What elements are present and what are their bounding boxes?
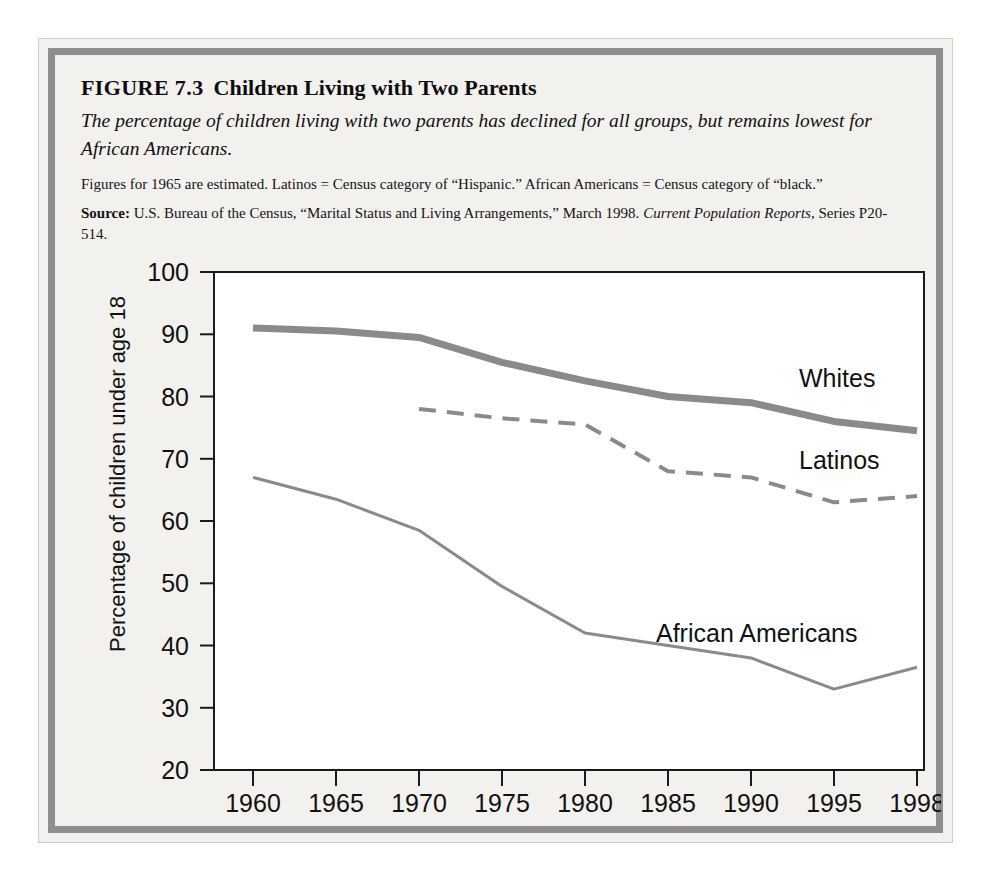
series-label-whites: Whites [799, 364, 875, 392]
x-tick-label: 1970 [391, 789, 447, 812]
y-tick-label: 30 [161, 693, 189, 721]
x-tick-label: 1960 [225, 789, 281, 812]
y-tick-label: 80 [161, 382, 189, 410]
figure-outer-frame: FIGURE 7.3Children Living with Two Paren… [38, 38, 953, 843]
x-axis-ticks [253, 770, 917, 786]
figure-source: Source: U.S. Bureau of the Census, “Mari… [81, 203, 910, 243]
y-axis-ticks [200, 272, 214, 770]
chart-container: 20 30 40 50 60 70 80 90 100 Percentage o… [81, 252, 941, 812]
y-tick-label: 90 [161, 320, 189, 348]
y-tick-label: 60 [161, 507, 189, 535]
x-tick-label: 1980 [557, 789, 613, 812]
y-tick-label: 100 [147, 258, 189, 286]
y-axis-tick-labels: 20 30 40 50 60 70 80 90 100 [147, 258, 189, 784]
y-tick-label: 20 [161, 756, 189, 784]
x-tick-label: 1985 [640, 789, 696, 812]
figure-subtitle: The percentage of children living with t… [81, 107, 910, 162]
figure-note: Figures for 1965 are estimated. Latinos … [81, 174, 910, 194]
y-tick-label: 50 [161, 569, 189, 597]
x-tick-label: 1975 [474, 789, 530, 812]
y-axis-title: Percentage of children under age 18 [105, 296, 130, 652]
plot-background [214, 272, 924, 770]
series-label-african-americans: African Americans [656, 619, 857, 647]
source-publication: Current Population Reports, [643, 205, 815, 221]
figure-number: FIGURE 7.3 [81, 75, 204, 100]
figure-name: Children Living with Two Parents [214, 75, 537, 100]
y-tick-label: 70 [161, 444, 189, 472]
x-tick-label: 1990 [723, 789, 779, 812]
source-lead: Source: [81, 205, 130, 221]
x-tick-label: 1995 [806, 789, 862, 812]
figure-title: FIGURE 7.3Children Living with Two Paren… [81, 75, 910, 101]
x-tick-label: 1965 [308, 789, 364, 812]
y-tick-label: 40 [161, 631, 189, 659]
figure-page: FIGURE 7.3Children Living with Two Paren… [0, 0, 993, 887]
line-chart: 20 30 40 50 60 70 80 90 100 Percentage o… [81, 252, 941, 812]
series-label-latinos: Latinos [799, 446, 880, 474]
x-tick-label: 1998 [889, 789, 941, 812]
x-axis-tick-labels: 1960 1965 1970 1975 1980 1985 1990 1995 … [225, 789, 941, 812]
figure-body: FIGURE 7.3Children Living with Two Paren… [55, 55, 936, 826]
source-text: U.S. Bureau of the Census, “Marital Stat… [134, 205, 640, 221]
figure-inner-frame: FIGURE 7.3Children Living with Two Paren… [48, 48, 943, 833]
